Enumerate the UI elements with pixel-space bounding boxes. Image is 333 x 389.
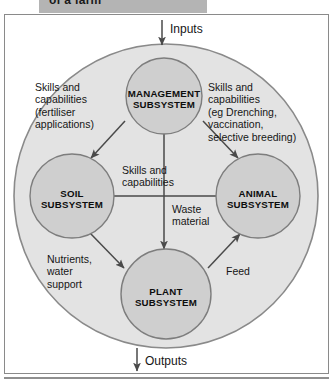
node-label-soil: SOIL SUBSYSTEM (16, 188, 128, 211)
flow-label-management-to-animal: Skills and capabilities (eg Drenching, v… (208, 81, 328, 143)
figure-page: of a farm (0, 0, 333, 389)
flow-label-plant-to-animal: Feed (226, 265, 276, 277)
node-label-management: MANAGEMENT SUBSYSTEM (106, 88, 222, 111)
flow-label-management-to-plant: Waste material (172, 203, 232, 228)
flow-label-management-to-soil: Skills and capabilities (fertiliser appl… (35, 81, 117, 131)
inputs-label: Inputs (170, 23, 203, 36)
flow-label-animal-to-soil: Skills and capabilities (122, 164, 204, 189)
system-diagram: MANAGEMENT SUBSYSTEM SOIL SUBSYSTEM ANIM… (0, 0, 333, 389)
node-label-plant: PLANT SUBSYSTEM (110, 286, 222, 309)
outputs-label: Outputs (145, 355, 187, 368)
flow-label-soil-to-plant: Nutrients, water support (47, 253, 119, 290)
